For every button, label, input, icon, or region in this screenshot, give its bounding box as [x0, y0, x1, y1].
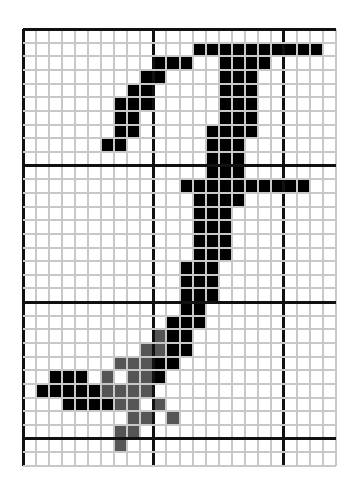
grid-line-horizontal — [23, 83, 336, 85]
grid-line-horizontal — [23, 219, 336, 221]
grid-line-horizontal — [23, 192, 336, 194]
grid-line-horizontal — [23, 383, 336, 385]
grid-line-horizontal — [23, 137, 336, 139]
grid-line-horizontal — [23, 69, 336, 71]
grid-line-horizontal — [23, 328, 336, 330]
major-grid-line-horizontal — [23, 437, 336, 440]
grid-line-horizontal — [23, 260, 336, 262]
major-grid-line-horizontal — [23, 28, 336, 31]
grid-line-horizontal — [23, 356, 336, 358]
grid-line-horizontal — [23, 247, 336, 249]
major-grid-line-horizontal — [23, 164, 336, 167]
grid-line-horizontal — [23, 206, 336, 208]
grid-line-horizontal — [23, 465, 336, 467]
grid-line-horizontal — [23, 451, 336, 453]
grid-line-horizontal — [23, 315, 336, 317]
grid-line-horizontal — [23, 110, 336, 112]
major-grid-line-horizontal — [23, 301, 336, 304]
grid-line-horizontal — [23, 410, 336, 412]
grid-line-horizontal — [23, 274, 336, 276]
grid-line-horizontal — [23, 151, 336, 153]
grid-line-horizontal — [23, 233, 336, 235]
grid-line-horizontal — [23, 424, 336, 426]
grid-line-horizontal — [23, 124, 336, 126]
grid-line-horizontal — [23, 96, 336, 98]
grid-line-horizontal — [23, 342, 336, 344]
pixel-grid-letter-f — [23, 29, 336, 466]
grid-line-horizontal — [23, 369, 336, 371]
grid-line-horizontal — [23, 397, 336, 399]
grid-line-horizontal — [23, 42, 336, 44]
grid-line-horizontal — [23, 178, 336, 180]
grid-line-horizontal — [23, 287, 336, 289]
grid-line-horizontal — [23, 55, 336, 57]
